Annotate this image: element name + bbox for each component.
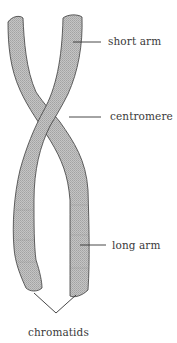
long-arm-label: long arm xyxy=(112,240,161,251)
chromosome-diagram xyxy=(0,0,177,343)
centromere-label: centromere xyxy=(110,111,173,122)
short-arm-label: short arm xyxy=(108,36,161,47)
chromatids-label: chromatids xyxy=(28,327,89,338)
